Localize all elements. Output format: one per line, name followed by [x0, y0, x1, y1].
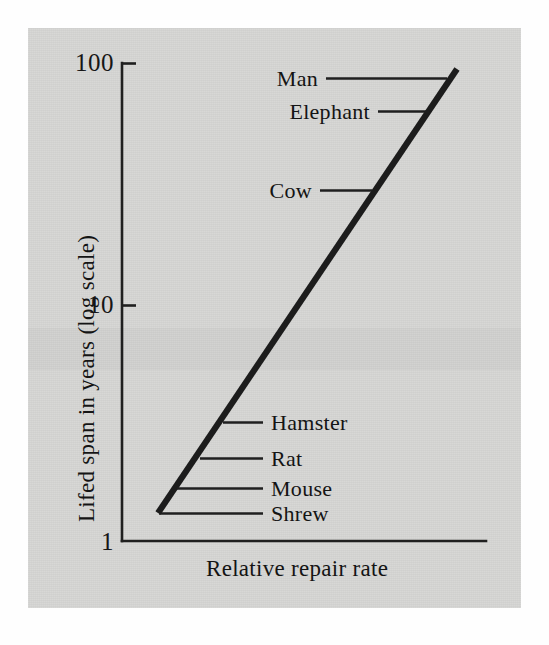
y-tick-label-100: 100	[58, 49, 114, 77]
series-label-mouse: Mouse	[271, 476, 332, 502]
y-axis-title: Lifed span in years (log scale)	[74, 235, 100, 522]
figure-root: 100 10 1 Lifed span in years (log scale)…	[0, 0, 549, 645]
data-line-lifespan	[158, 69, 457, 513]
series-label-elephant: Elephant	[200, 99, 370, 125]
series-label-man: Man	[200, 66, 318, 92]
x-axis-title: Relative repair rate	[206, 556, 388, 582]
series-label-rat: Rat	[271, 446, 302, 472]
series-label-hamster: Hamster	[271, 410, 348, 436]
series-label-cow: Cow	[200, 178, 312, 204]
y-tick-label-1: 1	[58, 528, 114, 556]
series-label-shrew: Shrew	[271, 501, 329, 527]
